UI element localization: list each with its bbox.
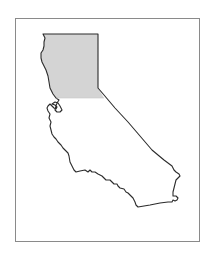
california-map bbox=[0, 0, 212, 254]
map-canvas bbox=[0, 0, 212, 254]
